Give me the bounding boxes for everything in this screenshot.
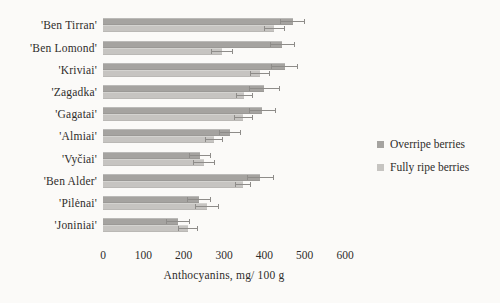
error-bar-cap xyxy=(189,153,190,158)
error-bar-cap xyxy=(264,26,265,31)
legend-label-overripe: Overripe berries xyxy=(390,138,465,150)
bar-overripe xyxy=(103,63,285,70)
error-bar-cap xyxy=(187,197,188,202)
error-bar-cap xyxy=(236,93,237,98)
category-label: 'Almiai' xyxy=(0,129,97,143)
error-bar-cap xyxy=(218,204,219,209)
category-label: 'Ben Lomond' xyxy=(0,41,97,55)
bar-fully-ripe xyxy=(103,70,260,77)
error-bar-cap xyxy=(250,71,251,76)
error-bar-cap xyxy=(304,19,305,24)
error-bar-cap xyxy=(222,137,223,142)
category-label: 'Pilėnai' xyxy=(0,196,97,210)
error-bar-line xyxy=(205,139,223,140)
error-bar-cap xyxy=(189,219,190,224)
bar-overripe xyxy=(103,41,282,48)
error-bar-cap xyxy=(178,226,179,231)
category-label: 'Joniniai' xyxy=(0,218,97,232)
x-tick-label: 400 xyxy=(244,249,284,261)
legend-label-fully-ripe: Fully ripe berries xyxy=(390,161,469,173)
error-bar-line xyxy=(264,28,286,29)
bar-overripe xyxy=(103,174,260,181)
error-bar-line xyxy=(271,66,298,67)
bar-chart-figure: 'Ben Tirran''Ben Lomond''Kriviai''Zagadk… xyxy=(0,0,500,303)
legend-swatch-fully-ripe-icon xyxy=(377,164,384,171)
error-bar-cap xyxy=(240,130,241,135)
category-axis: 'Ben Tirran''Ben Lomond''Kriviai''Zagadk… xyxy=(0,0,97,250)
error-bar-line xyxy=(166,221,190,222)
error-bar-cap xyxy=(270,42,271,47)
error-bar-line xyxy=(178,228,198,229)
error-bar-cap xyxy=(252,93,253,98)
bar-fully-ripe xyxy=(103,48,222,55)
x-axis-ticks: 0100200300400500600 xyxy=(103,249,345,263)
error-bar-cap xyxy=(166,219,167,224)
error-bar-cap xyxy=(294,42,295,47)
error-bar-cap xyxy=(250,182,251,187)
error-bar-line xyxy=(250,73,270,74)
error-bar-line xyxy=(189,155,212,156)
x-tick-label: 100 xyxy=(123,249,163,261)
error-bar-cap xyxy=(210,153,211,158)
error-bar-cap xyxy=(193,160,194,165)
error-bar-line xyxy=(219,132,242,133)
error-bar-line xyxy=(235,184,251,185)
x-tick-label: 300 xyxy=(204,249,244,261)
x-tick-label: 500 xyxy=(285,249,325,261)
error-bar-line xyxy=(234,117,253,118)
error-bar-line xyxy=(249,110,276,111)
category-label: 'Ben Alder' xyxy=(0,174,97,188)
legend-item-overripe: Overripe berries xyxy=(377,137,469,151)
plot-area xyxy=(103,0,345,250)
bar-overripe xyxy=(103,152,200,159)
x-tick-label: 0 xyxy=(83,249,123,261)
error-bar-line xyxy=(187,199,211,200)
error-bar-line xyxy=(236,95,253,96)
error-bar-cap xyxy=(249,108,250,113)
error-bar-cap xyxy=(252,115,253,120)
category-label: 'Gagatai' xyxy=(0,107,97,121)
bar-fully-ripe xyxy=(103,159,204,166)
error-bar-cap xyxy=(269,71,270,76)
error-bar-line xyxy=(211,51,234,52)
bar-fully-ripe xyxy=(103,114,243,121)
error-bar-cap xyxy=(271,64,272,69)
x-tick-label: 600 xyxy=(325,249,365,261)
error-bar-line xyxy=(247,177,274,178)
category-label: 'Kriviai' xyxy=(0,63,97,77)
bar-fully-ripe xyxy=(103,181,243,188)
error-bar-cap xyxy=(297,64,298,69)
error-bar-line xyxy=(270,44,295,45)
error-bar-cap xyxy=(247,175,248,180)
x-tick-label: 200 xyxy=(164,249,204,261)
bar-fully-ripe xyxy=(103,203,207,210)
error-bar-line xyxy=(195,206,219,207)
error-bar-cap xyxy=(195,204,196,209)
bar-fully-ripe xyxy=(103,25,274,32)
bar-overripe xyxy=(103,129,230,136)
error-bar-cap xyxy=(197,226,198,231)
error-bar-cap xyxy=(210,197,211,202)
legend-item-fully-ripe: Fully ripe berries xyxy=(377,160,469,174)
error-bar-cap xyxy=(234,115,235,120)
legend-swatch-overripe-icon xyxy=(377,141,384,148)
error-bar-cap xyxy=(280,19,281,24)
error-bar-cap xyxy=(273,175,274,180)
error-bar-cap xyxy=(284,26,285,31)
error-bar-cap xyxy=(249,86,250,91)
error-bar-cap xyxy=(275,108,276,113)
error-bar-cap xyxy=(279,86,280,91)
error-bar-line xyxy=(280,21,304,22)
category-label: 'Ben Tirran' xyxy=(0,18,97,32)
error-bar-line xyxy=(193,162,215,163)
error-bar-cap xyxy=(232,49,233,54)
error-bar-cap xyxy=(211,49,212,54)
category-label: 'Zagadka' xyxy=(0,85,97,99)
error-bar-line xyxy=(249,88,280,89)
error-bar-cap xyxy=(205,137,206,142)
bar-overripe xyxy=(103,107,262,114)
legend: Overripe berries Fully ripe berries xyxy=(377,137,469,183)
error-bar-cap xyxy=(214,160,215,165)
bar-overripe xyxy=(103,18,293,25)
error-bar-cap xyxy=(219,130,220,135)
